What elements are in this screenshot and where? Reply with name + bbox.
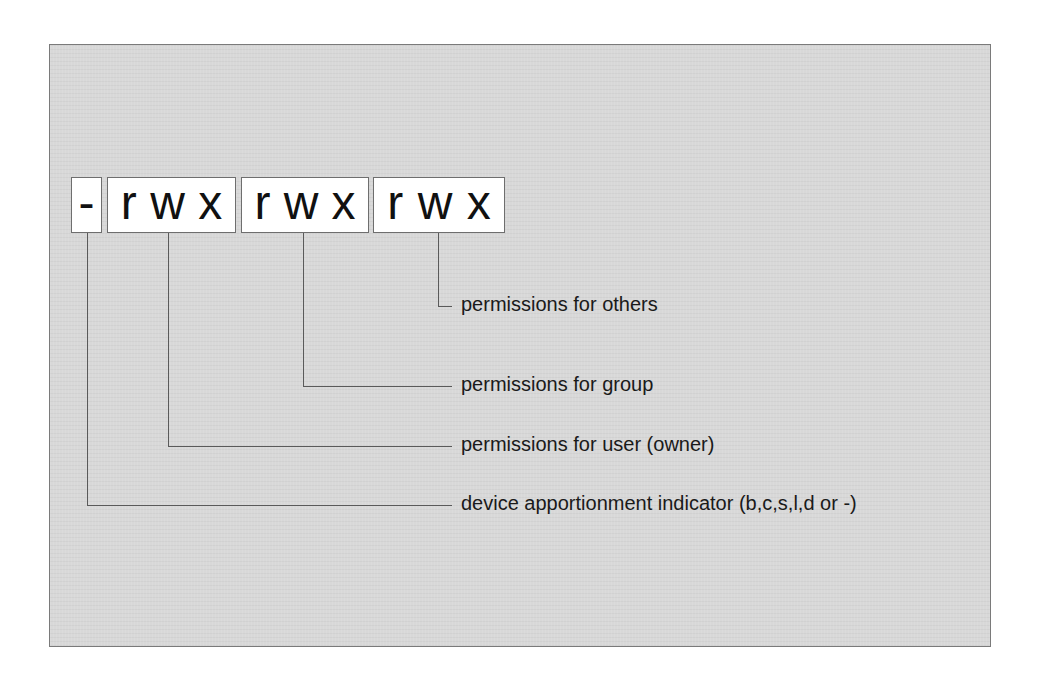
type-indicator-char: - bbox=[79, 179, 95, 227]
others-execute-char: x bbox=[467, 179, 491, 227]
type-indicator-box: - bbox=[71, 177, 102, 233]
diagram-frame bbox=[49, 44, 991, 647]
user-write-char: w bbox=[150, 179, 185, 227]
others-connector-horizontal bbox=[438, 306, 452, 307]
device-connector-vertical bbox=[87, 233, 88, 506]
user-connector-vertical bbox=[168, 233, 169, 447]
device-label: device apportionment indicator (b,c,s,l,… bbox=[461, 491, 857, 515]
group-connector-vertical bbox=[303, 233, 304, 387]
device-connector-horizontal bbox=[87, 505, 452, 506]
others-permissions-box: r w x bbox=[373, 177, 505, 233]
group-label: permissions for group bbox=[461, 372, 653, 396]
user-connector-horizontal bbox=[168, 446, 452, 447]
user-execute-char: x bbox=[198, 179, 222, 227]
group-permissions-box: r w x bbox=[241, 177, 369, 233]
user-label: permissions for user (owner) bbox=[461, 432, 714, 456]
group-execute-char: x bbox=[331, 179, 355, 227]
user-read-char: r bbox=[121, 179, 137, 227]
others-read-char: r bbox=[387, 179, 403, 227]
user-permissions-box: r w x bbox=[107, 177, 236, 233]
others-label: permissions for others bbox=[461, 292, 658, 316]
others-connector-vertical bbox=[438, 233, 439, 307]
group-write-char: w bbox=[284, 179, 319, 227]
others-write-char: w bbox=[418, 179, 453, 227]
group-read-char: r bbox=[255, 179, 271, 227]
group-connector-horizontal bbox=[303, 386, 452, 387]
